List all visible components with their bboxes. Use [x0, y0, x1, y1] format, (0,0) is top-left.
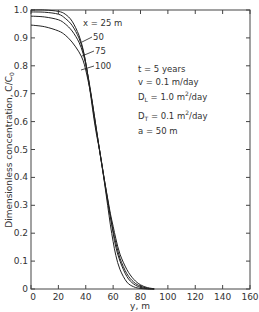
- y-tick-label: 0.4: [14, 172, 29, 182]
- curve-label-25: x = 25 m: [83, 18, 122, 28]
- x-tick-label: 0: [30, 292, 36, 302]
- x-tick-label: 120: [187, 292, 204, 302]
- axis-ticks: [31, 10, 250, 289]
- curve-label-50: 50: [93, 32, 104, 42]
- x-tick-label: 100: [159, 292, 176, 302]
- y-axis-label: Dimensionless concentration, C/C0: [4, 72, 15, 228]
- param-dt: DT = 0.1 m2/day: [138, 107, 208, 126]
- x-tick-label: 20: [53, 292, 65, 302]
- y-tick-label: 0: [22, 284, 28, 294]
- y-tick-label: 1.0: [14, 5, 29, 15]
- curve-100m: [31, 25, 154, 289]
- y-tick-label: 0.8: [14, 61, 29, 71]
- concentration-chart: 020406080100120140160 00.10.20.30.40.50.…: [0, 0, 259, 312]
- y-tick-label: 0.9: [14, 33, 29, 43]
- param-v: v = 0.1 m/day: [138, 76, 208, 89]
- y-tick-label: 0.3: [14, 200, 28, 210]
- y-tick-labels: 00.10.20.30.40.50.60.70.80.91.0: [14, 5, 29, 294]
- curve-label-100: 100: [95, 61, 111, 71]
- x-tick-label: 60: [107, 292, 119, 302]
- curve-75m: [31, 16, 154, 289]
- y-tick-label: 0.7: [14, 89, 28, 99]
- param-t: t = 5 years: [138, 63, 208, 76]
- y-tick-label: 0.1: [14, 256, 28, 266]
- plot-frame: [31, 10, 250, 289]
- param-a: a = 50 m: [138, 125, 208, 138]
- y-tick-label: 0.2: [14, 228, 28, 238]
- x-tick-label: 160: [241, 292, 258, 302]
- curve-label-75: 75: [95, 46, 106, 56]
- curve-50m: [31, 12, 154, 289]
- y-tick-label: 0.6: [14, 117, 29, 127]
- x-axis-label: y, m: [130, 301, 150, 311]
- parameter-box: t = 5 years v = 0.1 m/day DL = 1.0 m2/da…: [138, 63, 208, 138]
- x-tick-label: 140: [214, 292, 231, 302]
- y-tick-label: 0.5: [14, 145, 28, 155]
- x-tick-label: 40: [80, 292, 92, 302]
- param-dl: DL = 1.0 m2/day: [138, 88, 208, 107]
